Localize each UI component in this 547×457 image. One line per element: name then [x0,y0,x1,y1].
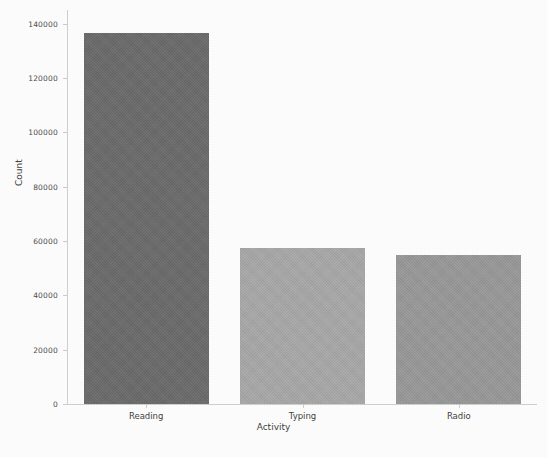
x-tick-label: Radio [447,411,471,421]
y-tick-label: 60000 [33,236,58,245]
x-axis-label: Activity [0,422,547,432]
bar-chart-figure: Count 0200004000060000800001000001200001… [0,0,547,457]
x-tick-label: Reading [129,411,164,421]
y-tick-mark [63,132,67,133]
y-tick-label: 140000 [28,19,58,28]
y-tick-label: 120000 [28,73,58,82]
x-tick-mark [146,404,147,408]
plot-area [68,10,537,404]
bar-texture [240,248,365,404]
y-tick-label: 100000 [28,128,58,137]
y-tick-mark [63,350,67,351]
y-tick-label: 40000 [33,291,58,300]
x-tick-mark [459,404,460,408]
x-tick-label: Typing [289,411,316,421]
y-tick-mark [63,187,67,188]
y-tick-mark [63,24,67,25]
bar [396,255,521,404]
bar-texture [396,255,521,404]
y-tick-mark [63,78,67,79]
y-axis-label: Count [14,159,24,186]
y-tick-label: 80000 [33,182,58,191]
bar [84,33,209,404]
bar [240,248,365,404]
y-axis-spine [67,10,68,404]
y-tick-label: 0 [53,400,58,409]
bar-texture [84,33,209,404]
y-tick-label: 20000 [33,345,58,354]
y-tick-mark [63,295,67,296]
y-tick-mark [63,404,67,405]
x-tick-mark [303,404,304,408]
y-tick-mark [63,241,67,242]
